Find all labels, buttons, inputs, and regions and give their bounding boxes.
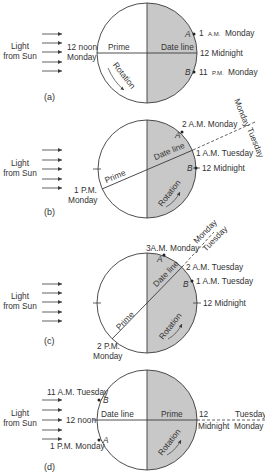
point-b-label: B <box>183 279 189 289</box>
point-a-time: 1 P.M. Monday <box>50 441 106 451</box>
earth-globe <box>93 120 196 218</box>
date-line-time-label: 1 A.M. Tuesday <box>196 148 254 158</box>
prime-meridian-label: Prime <box>114 309 137 332</box>
light-label: from Sun <box>3 168 37 178</box>
prime-time-label: 1 P.M. <box>74 185 97 195</box>
panel-label: (c) <box>44 336 55 346</box>
svg-text:Prime: Prime <box>114 309 137 332</box>
light-label: Light <box>11 408 30 418</box>
panel-b: Light from Sun Prime Date line 1 P.M. Mo… <box>3 97 265 218</box>
prime-meridian-label: Prime <box>161 409 183 419</box>
light-label: from Sun <box>3 51 37 61</box>
panel-c: Light from Sun Prime Date line 2 P.M. Mo… <box>3 217 254 361</box>
point-a-marker <box>193 33 196 36</box>
light-label: from Sun <box>3 301 37 311</box>
point-b-time: 1 A.M. Tuesday <box>196 276 254 286</box>
date-line-time-label: 2 A.M. Tuesday <box>186 262 244 272</box>
noon-label: 12 noon <box>66 415 96 425</box>
date-line-label: Date line <box>101 409 134 419</box>
point-a-label: A <box>184 29 191 39</box>
svg-text:Prime: Prime <box>103 167 127 185</box>
point-a-label: A <box>156 254 163 264</box>
point-a-time: 2 A.M. Monday <box>182 119 238 129</box>
north-side-day-label: Tuesday <box>235 409 265 419</box>
midnight-number-label: 12 <box>199 409 209 419</box>
sunlight-arrows <box>42 34 62 71</box>
svg-text:Rotation: Rotation <box>111 60 138 91</box>
point-a-marker <box>163 254 166 257</box>
prime-time-label: 2 P.M. <box>97 341 120 351</box>
prime-meridian-label: Prime <box>103 167 127 185</box>
noon-label: 12 noon <box>67 42 97 52</box>
panel-d: Light from Sun Date line Prime 12 noon 1… <box>3 370 265 472</box>
panel-label: (b) <box>44 207 55 217</box>
prime-day-label: Monday <box>93 351 123 361</box>
midnight-label: Midnight <box>198 421 230 431</box>
point-b-time: 11 A.M. Tuesday <box>47 387 109 397</box>
panel-a: Light from Sun Prime Date line 12 noon M… <box>3 3 258 103</box>
light-label: Light <box>11 158 30 168</box>
south-side-day-label: Monday <box>234 421 264 431</box>
date-line-label: Date line <box>161 42 194 52</box>
point-a-time: 3A.M. Monday <box>146 243 200 253</box>
earth-globe <box>97 3 197 103</box>
sunlight-arrows <box>42 400 62 439</box>
prime-meridian-label: Prime <box>108 42 130 52</box>
midnight-label: 12 Midnight <box>200 48 244 58</box>
prime-day-label: Monday <box>68 195 98 205</box>
light-label: from Sun <box>3 418 37 428</box>
panel-label: (d) <box>44 462 55 472</box>
point-b-label: B <box>187 163 193 173</box>
point-b-label: B <box>185 67 191 77</box>
earth-rotation-date-line-diagram: Light from Sun Prime Date line 12 noon M… <box>0 0 265 476</box>
point-a-marker <box>181 131 184 134</box>
point-b-marker <box>98 399 101 402</box>
point-a-time: 1 A.M. Monday <box>199 22 255 39</box>
midnight-label: 12 Midnight <box>203 298 247 308</box>
light-label: Light <box>11 291 30 301</box>
point-b-marker <box>193 71 196 74</box>
point-b-time: 11 P.M. Monday <box>199 61 258 78</box>
sunlight-arrows <box>42 284 62 321</box>
earth-globe <box>93 253 201 353</box>
point-a-label: A <box>174 130 181 140</box>
light-label: Light <box>11 41 30 51</box>
panel-label: (a) <box>44 92 55 102</box>
sunlight-arrows <box>42 150 62 188</box>
earth-globe <box>93 370 197 470</box>
noon-day-label: Monday <box>67 52 97 62</box>
rotation-label: Rotation <box>111 60 138 91</box>
point-b-marker <box>191 280 194 283</box>
point-b-time: 12 Midnight <box>202 163 246 173</box>
point-b-marker <box>195 167 198 170</box>
